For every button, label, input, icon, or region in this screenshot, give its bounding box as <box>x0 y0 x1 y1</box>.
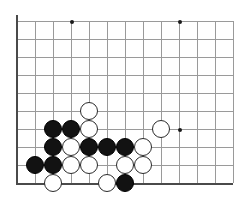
black-stone[interactable] <box>116 138 134 156</box>
white-stone[interactable] <box>98 174 116 192</box>
board-left-edge <box>16 15 18 184</box>
white-stone[interactable] <box>80 102 98 120</box>
black-stone[interactable] <box>44 156 62 174</box>
white-stone[interactable] <box>134 138 152 156</box>
grid-line-vertical <box>197 21 198 183</box>
grid-line-vertical <box>107 21 108 183</box>
white-stone[interactable] <box>62 156 80 174</box>
go-board-diagram <box>0 0 240 208</box>
black-stone[interactable] <box>44 120 62 138</box>
black-stone[interactable] <box>44 138 62 156</box>
star-point <box>178 20 182 24</box>
white-stone[interactable] <box>62 138 80 156</box>
black-stone[interactable] <box>80 138 98 156</box>
white-stone[interactable] <box>80 156 98 174</box>
grid-line-vertical <box>215 21 216 183</box>
black-stone[interactable] <box>116 174 134 192</box>
grid-line-vertical <box>161 21 162 183</box>
black-stone[interactable] <box>98 138 116 156</box>
star-point <box>178 128 182 132</box>
white-stone[interactable] <box>134 156 152 174</box>
grid-line-vertical <box>179 21 180 183</box>
white-stone[interactable] <box>152 120 170 138</box>
star-point <box>70 20 74 24</box>
goban[interactable] <box>0 0 240 208</box>
grid-line-vertical <box>233 21 234 183</box>
white-stone[interactable] <box>116 156 134 174</box>
white-stone[interactable] <box>80 120 98 138</box>
black-stone[interactable] <box>62 120 80 138</box>
black-stone[interactable] <box>26 156 44 174</box>
white-stone[interactable] <box>44 174 62 192</box>
